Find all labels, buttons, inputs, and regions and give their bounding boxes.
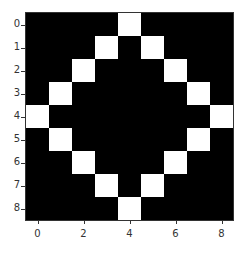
heatmap-cell: [164, 174, 187, 197]
y-tick-label: 2: [0, 64, 20, 75]
y-tick-label: 4: [0, 110, 20, 121]
x-tick-label: 8: [212, 228, 232, 239]
heatmap-cell: [164, 13, 187, 36]
heatmap-cell: [164, 197, 187, 220]
heatmap-cell: [95, 36, 118, 59]
heatmap-cell: [26, 59, 49, 82]
heatmap-cell: [141, 128, 164, 151]
heatmap-cell: [26, 151, 49, 174]
heatmap-cell: [95, 151, 118, 174]
heatmap-cell: [141, 36, 164, 59]
heatmap-cell: [187, 36, 210, 59]
y-tick-mark: [21, 94, 25, 95]
heatmap-cell: [72, 105, 95, 128]
heatmap-cell: [95, 197, 118, 220]
heatmap-cell: [95, 59, 118, 82]
heatmap-cell: [49, 197, 72, 220]
heatmap-cell: [141, 59, 164, 82]
heatmap-cell: [164, 59, 187, 82]
x-tick-mark: [176, 220, 177, 224]
heatmap-cell: [72, 151, 95, 174]
x-tick-mark: [38, 220, 39, 224]
heatmap-cell: [26, 128, 49, 151]
heatmap-cell: [210, 151, 233, 174]
heatmap-cell: [187, 174, 210, 197]
heatmap-cell: [49, 82, 72, 105]
y-tick-label: 1: [0, 41, 20, 52]
heatmap-cell: [210, 59, 233, 82]
x-tick-mark: [84, 220, 85, 224]
heatmap-cell: [141, 105, 164, 128]
y-tick-mark: [21, 209, 25, 210]
y-tick-mark: [21, 48, 25, 49]
heatmap-cell: [187, 197, 210, 220]
heatmap-cell: [72, 82, 95, 105]
heatmap-cell: [210, 197, 233, 220]
heatmap-cell: [72, 59, 95, 82]
heatmap-cell: [26, 36, 49, 59]
x-tick-label: 6: [166, 228, 186, 239]
x-tick-mark: [222, 220, 223, 224]
heatmap-cell: [210, 13, 233, 36]
heatmap-cell: [72, 128, 95, 151]
heatmap-cell: [26, 174, 49, 197]
heatmap-cell: [187, 13, 210, 36]
y-tick-mark: [21, 163, 25, 164]
heatmap-cell: [141, 197, 164, 220]
heatmap-cell: [26, 82, 49, 105]
heatmap-cell: [164, 36, 187, 59]
heatmap-cell: [141, 151, 164, 174]
heatmap-cell: [26, 13, 49, 36]
heatmap-cell: [95, 105, 118, 128]
heatmap-cell: [118, 105, 141, 128]
heatmap-cell: [141, 174, 164, 197]
x-tick-label: 2: [74, 228, 94, 239]
heatmap-cell: [118, 151, 141, 174]
heatmap-cell: [49, 36, 72, 59]
y-tick-label: 8: [0, 202, 20, 213]
heatmap-cell: [210, 36, 233, 59]
heatmap-cell: [26, 105, 49, 128]
heatmap-cell: [187, 59, 210, 82]
heatmap-cell: [49, 174, 72, 197]
y-tick-label: 3: [0, 87, 20, 98]
x-tick-label: 4: [120, 228, 140, 239]
x-tick-mark: [130, 220, 131, 224]
heatmap-cell: [210, 105, 233, 128]
y-tick-mark: [21, 186, 25, 187]
heatmap-plot-area: [25, 12, 234, 221]
heatmap-cell: [164, 105, 187, 128]
y-tick-label: 0: [0, 18, 20, 29]
heatmap-cell: [95, 13, 118, 36]
heatmap-cell: [118, 59, 141, 82]
heatmap-cell: [210, 174, 233, 197]
heatmap-cell: [95, 174, 118, 197]
y-tick-mark: [21, 71, 25, 72]
heatmap-cell: [72, 197, 95, 220]
y-tick-mark: [21, 117, 25, 118]
heatmap-cell: [118, 36, 141, 59]
heatmap-cell: [72, 36, 95, 59]
heatmap-cell: [49, 105, 72, 128]
heatmap-cell: [164, 128, 187, 151]
y-tick-label: 7: [0, 179, 20, 190]
heatmap-cell: [26, 197, 49, 220]
heatmap-cell: [95, 82, 118, 105]
heatmap-cell: [118, 174, 141, 197]
heatmap-cell: [187, 151, 210, 174]
heatmap-cell: [210, 128, 233, 151]
y-tick-mark: [21, 25, 25, 26]
heatmap-cell: [210, 82, 233, 105]
heatmap-cell: [118, 82, 141, 105]
heatmap-cell: [49, 128, 72, 151]
heatmap-cell: [49, 59, 72, 82]
heatmap-cell: [72, 174, 95, 197]
heatmap-cell: [72, 13, 95, 36]
y-tick-label: 6: [0, 156, 20, 167]
y-tick-label: 5: [0, 133, 20, 144]
x-tick-label: 0: [28, 228, 48, 239]
heatmap-cell: [118, 13, 141, 36]
heatmap-cell: [164, 82, 187, 105]
heatmap-cell: [49, 13, 72, 36]
heatmap-cell: [95, 128, 118, 151]
